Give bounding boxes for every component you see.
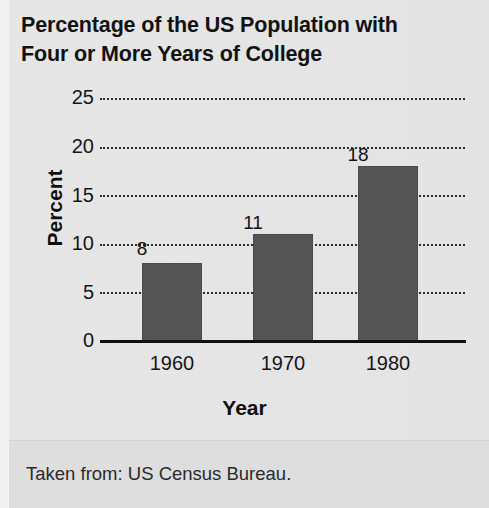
y-tick-label-20: 20 bbox=[48, 135, 94, 158]
x-tick-label-1960: 1960 bbox=[127, 352, 217, 375]
y-tick-label-0: 0 bbox=[48, 329, 94, 352]
bar-1980[interactable] bbox=[358, 166, 418, 341]
x-axis-line bbox=[100, 340, 466, 343]
bar-chart: Percent 25 20 15 10 5 0 8 11 18 1960 197… bbox=[0, 0, 489, 440]
caption-divider bbox=[9, 440, 489, 441]
x-axis-label: Year bbox=[0, 396, 489, 420]
y-tick-label-5: 5 bbox=[48, 281, 94, 304]
y-tick-label-10: 10 bbox=[48, 232, 94, 255]
gridline-25 bbox=[100, 98, 465, 100]
y-tick-label-15: 15 bbox=[48, 184, 94, 207]
x-tick-label-1970: 1970 bbox=[238, 352, 328, 375]
bar-value-1960: 8 bbox=[112, 238, 172, 260]
source-caption: Taken from: US Census Bureau. bbox=[26, 463, 291, 485]
figure-page: Percentage of the US Population with Fou… bbox=[0, 0, 489, 508]
x-tick-label-1980: 1980 bbox=[343, 352, 433, 375]
y-tick-label-25: 25 bbox=[48, 86, 94, 109]
gridline-20 bbox=[100, 147, 465, 149]
bar-value-1980: 18 bbox=[328, 144, 388, 166]
bar-1960[interactable] bbox=[142, 263, 202, 341]
bar-1970[interactable] bbox=[253, 234, 313, 341]
bar-value-1970: 11 bbox=[223, 212, 283, 234]
